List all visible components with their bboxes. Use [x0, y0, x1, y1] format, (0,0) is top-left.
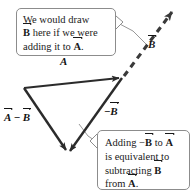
- vector-subtraction-figure: We would draw B here if we were adding i…: [0, 0, 191, 195]
- vector-symbol-B: B: [23, 26, 30, 39]
- callout-adding-note: We would draw B here if we were adding i…: [16, 8, 116, 56]
- callout-adding-line-3: adding it to A.: [23, 40, 110, 53]
- callout-sub-line-2: is equivalent to: [105, 150, 185, 164]
- callout-adding-text-1: We would draw: [23, 14, 89, 25]
- callout-sub-text-4b: .: [136, 178, 139, 189]
- vector-symbol-A-minus: A: [4, 111, 11, 123]
- callout-tail-subtracting-note: [90, 134, 97, 148]
- callout-sub-line-3: subtracting B: [105, 164, 185, 178]
- vector-A-minus-B-arrow: [24, 88, 66, 150]
- callout-sub-line-1: Adding −B to A: [105, 136, 185, 150]
- diagram-label-B: B: [148, 38, 155, 50]
- vector-symbol-negB-label: B: [110, 105, 117, 117]
- vector-symbol-neg-B: B: [145, 136, 152, 150]
- callout-sub-line-4: from A.: [105, 177, 185, 191]
- diagram-label-negative-B: −B: [104, 105, 118, 117]
- callout-adding-text-3: adding it to: [23, 41, 73, 52]
- callout-subtracting-note: Adding −B to A is equivalent to subtract…: [97, 130, 190, 190]
- callout-adding-text-2: here if we were: [30, 27, 98, 38]
- vector-symbol-A-label: A: [60, 55, 67, 67]
- callout-sub-text-1b: to: [152, 137, 165, 148]
- minus-sign-AminusB: −: [11, 111, 22, 123]
- vector-symbol-A-2: A: [165, 136, 173, 150]
- vector-symbol-B-label: B: [148, 38, 155, 50]
- diagram-label-A-minus-B: A−B: [4, 111, 30, 123]
- vector-symbol-A-3: A: [128, 177, 136, 191]
- callout-tail-adding-note: [116, 16, 123, 29]
- diagram-label-A: A: [60, 55, 67, 67]
- vector-symbol-B-minus: B: [23, 111, 30, 123]
- callout-adding-text-3b: .: [81, 41, 84, 52]
- callout-adding-line-2: B here if we were: [23, 26, 110, 39]
- vector-symbol-A: A: [73, 40, 81, 53]
- callout-sub-text-4: from: [105, 178, 128, 189]
- callout-adding-line-1: We would draw: [23, 13, 110, 26]
- callout-sub-text-1: Adding −: [105, 137, 145, 148]
- vector-A-arrow: [24, 78, 119, 88]
- vector-symbol-B-2: B: [154, 164, 161, 178]
- leader-line-adding-note: [116, 22, 147, 45]
